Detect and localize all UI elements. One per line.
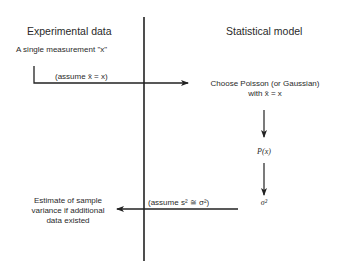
estimate-line-2: variance if additional [20, 206, 116, 216]
choose-distribution-line-2: with x̄ = x [205, 89, 325, 99]
estimate-label: Estimate of sample variance if additiona… [20, 196, 116, 226]
choose-distribution-step: Choose Poisson (or Gaussian) with x̄ = x [205, 79, 325, 99]
diagram-lines [0, 0, 345, 273]
estimate-line-1: Estimate of sample [20, 196, 116, 206]
assumption-top-label: (assume x̄ = x) [55, 72, 108, 82]
probability-function-label: P(x) [249, 147, 279, 157]
estimate-line-3: data existed [20, 216, 116, 226]
choose-distribution-line-1: Choose Poisson (or Gaussian) [205, 79, 325, 89]
measurement-label: A single measurement "x" [16, 45, 107, 55]
experimental-data-title: Experimental data [27, 25, 112, 37]
statistical-model-title: Statistical model [226, 25, 302, 37]
variance-label: σ² [254, 198, 274, 208]
assumption-bottom-label: (assume s² ≅ σ²) [148, 198, 209, 208]
